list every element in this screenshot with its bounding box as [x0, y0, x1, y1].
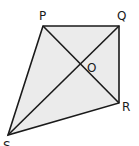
kite-diagram: P Q R S O — [0, 0, 139, 146]
vertex-label-s: S — [3, 139, 11, 146]
vertex-label-r: R — [122, 100, 130, 114]
vertex-label-p: P — [39, 9, 46, 23]
intersection-label-o: O — [87, 61, 96, 75]
vertex-label-q: Q — [117, 9, 126, 23]
